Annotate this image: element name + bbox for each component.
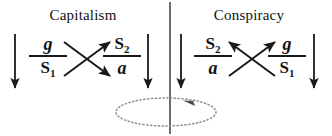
- fraction-bar: [103, 55, 141, 57]
- fraction-bar: [29, 55, 67, 57]
- panel-title-conspiracy: Conspiracy: [166, 6, 332, 24]
- fraction-denominator: a: [100, 58, 144, 78]
- fraction-left-conspiracy: S2 a: [191, 34, 235, 78]
- fraction-numerator: S2: [191, 34, 235, 54]
- panel-title-capitalism: Capitalism: [0, 6, 166, 24]
- fraction-bar: [268, 55, 306, 57]
- fraction-numerator: S2: [100, 34, 144, 54]
- fraction-denominator: S1: [26, 58, 70, 78]
- fraction-numerator: g: [26, 34, 70, 54]
- fraction-bar: [194, 55, 232, 57]
- fraction-right-conspiracy: g S1: [265, 34, 309, 78]
- fraction-denominator: a: [191, 58, 235, 78]
- panel-capitalism: Capitalism g S1 S2 a: [0, 0, 166, 136]
- fraction-numerator: g: [265, 34, 309, 54]
- fraction-denominator: S1: [265, 58, 309, 78]
- discourse-diagram: Capitalism g S1 S2 a Conspiracy: [0, 0, 332, 136]
- fraction-left-capitalism: g S1: [26, 34, 70, 78]
- fraction-right-capitalism: S2 a: [100, 34, 144, 78]
